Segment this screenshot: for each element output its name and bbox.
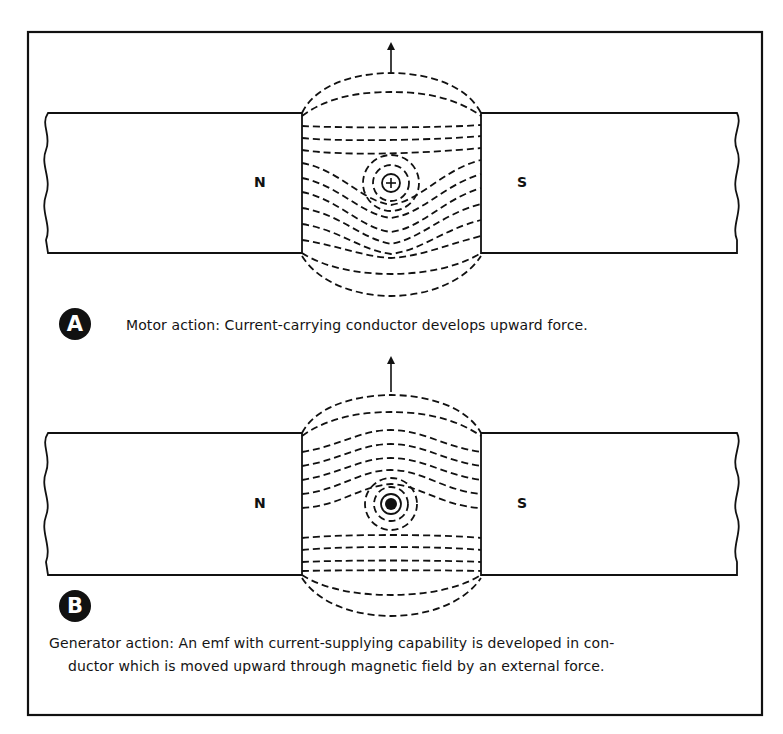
- south-pole-label-a: S: [517, 174, 527, 190]
- panel-b-caption-line2: ductor which is moved upward through mag…: [68, 658, 604, 674]
- magnetic-field-diagram: [0, 0, 783, 734]
- panel-b: [44, 360, 738, 616]
- panel-a-caption: Motor action: Current-carrying conductor…: [126, 317, 588, 333]
- panel-a-badge: A: [59, 308, 91, 340]
- north-pole-label-a: N: [254, 174, 266, 190]
- panel-b-badge: B: [59, 590, 91, 622]
- south-pole-label-b: S: [517, 495, 527, 511]
- panel-b-caption-line1: Generator action: An emf with current-su…: [49, 635, 614, 651]
- north-pole-label-b: N: [254, 495, 266, 511]
- panel-a: [44, 46, 738, 296]
